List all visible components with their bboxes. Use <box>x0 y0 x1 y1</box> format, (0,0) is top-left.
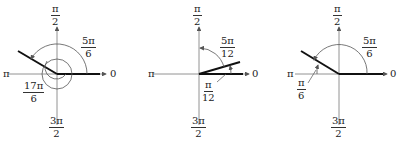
label-leader <box>217 74 226 82</box>
terminal-side <box>301 51 339 74</box>
diagram-5pi-over-6: π2 π 0 3π2 5π6 π6 <box>266 0 398 143</box>
label-17pi-over-6: 17π6 <box>23 81 44 104</box>
label-3pi-over-2: 3π2 <box>331 116 346 139</box>
label-leader <box>308 70 316 83</box>
angle-arc-pi-6 <box>317 65 318 74</box>
label-5pi-over-12: 5π12 <box>220 36 235 59</box>
label-pi-over-6: π6 <box>297 78 306 101</box>
label-5pi-over-6: 5π6 <box>81 36 96 59</box>
angle-arc-5pi-6 <box>314 45 367 74</box>
label-zero: 0 <box>390 69 396 79</box>
label-pi: π <box>148 69 155 79</box>
label-zero: 0 <box>110 69 116 79</box>
diagram-5pi-over-12: π2 π 0 3π2 5π12 π12 <box>133 0 266 143</box>
label-3pi-over-2: 3π2 <box>49 116 64 139</box>
label-5pi-over-6: 5π6 <box>362 36 377 59</box>
label-pi-over-12: π12 <box>202 80 215 103</box>
diagram-17pi-over-6: π2 π 0 3π2 5π6 17π6 <box>0 0 133 143</box>
label-pi: π <box>3 69 10 79</box>
label-pi-over-2: π2 <box>51 4 60 27</box>
label-pi-over-2: π2 <box>333 4 342 27</box>
terminal-side <box>199 62 240 74</box>
rotation-circle-2 <box>45 61 66 79</box>
angle-arc-pi-12 <box>230 66 231 74</box>
terminal-side <box>18 51 57 74</box>
label-pi: π <box>287 69 294 79</box>
label-pi-over-2: π2 <box>193 4 202 27</box>
label-3pi-over-2: 3π2 <box>191 116 206 139</box>
label-zero: 0 <box>252 69 258 79</box>
